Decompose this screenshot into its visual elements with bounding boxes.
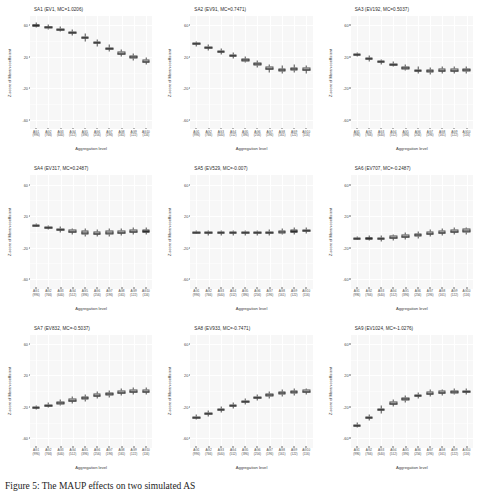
x-tick-label: AG8(161) (439, 449, 446, 456)
boxplot-marker (414, 70, 422, 71)
x-tick-mark (109, 287, 110, 289)
boxplot-marker (451, 392, 459, 393)
boxplot-median (241, 402, 249, 403)
x-tick-label: AG9(122) (290, 131, 297, 138)
boxplot-median (414, 396, 422, 397)
x-tick-label-line2: (122) (451, 134, 458, 138)
y-tick-label: -60 (343, 436, 349, 441)
gridline-vertical (357, 16, 358, 129)
x-tick-label-line2: (996) (193, 134, 200, 138)
y-tick-label: -60 (183, 436, 189, 441)
x-tick-label: AG10(116) (463, 449, 471, 456)
x-tick-label-line2: (396) (242, 453, 249, 457)
boxplot-marker (353, 238, 361, 239)
x-tick-label-line2: (396) (402, 453, 409, 457)
gridline-vertical (196, 335, 197, 448)
x-tick-labels: AG1(996)AG2(766)AG3(640)AG4(512)AG5(396)… (30, 289, 152, 301)
x-tick-label-line2: (196) (266, 134, 273, 138)
y-tick-labels: 6020-20-60 (14, 335, 30, 448)
gridline-vertical (233, 335, 234, 448)
y-tick-labels: 6020-20-60 (174, 16, 190, 129)
boxplot-median (426, 393, 434, 394)
figure-container: SA1 (EV1, MC=1.0206)Z-score of Moran coe… (0, 0, 481, 498)
boxplot-median (32, 407, 40, 408)
boxplot-median (302, 69, 310, 70)
plot-area (30, 335, 152, 448)
x-tick-label-line2: (766) (45, 134, 52, 138)
boxplot-marker (142, 231, 150, 232)
boxplot-marker (353, 55, 361, 56)
boxplot-median (302, 391, 310, 392)
boxplot-marker (118, 232, 126, 233)
x-tick-label-line2: (396) (402, 134, 409, 138)
x-tick-label-line2: (122) (130, 294, 137, 298)
x-tick-label: AG7(196) (266, 449, 273, 456)
boxplot-marker (32, 407, 40, 408)
x-tick-label: AG4(512) (229, 131, 236, 138)
x-tick-mark (84, 287, 85, 289)
x-tick-mark (97, 446, 98, 448)
boxplot-median (217, 409, 225, 410)
boxplot-marker (266, 233, 274, 234)
plot-area (351, 335, 473, 448)
x-tick-mark (72, 287, 73, 289)
x-tick-mark (306, 128, 307, 130)
x-tick-label-line2: (640) (217, 134, 224, 138)
x-tick-label: AG6(256) (414, 290, 421, 297)
boxplot-median (290, 392, 298, 393)
boxplot-marker (402, 236, 410, 237)
boxplot-median (106, 394, 114, 395)
x-axis-label: Aggregation level (351, 465, 473, 470)
panel-title: SA6 (EV707, MC=-0.2487) (355, 166, 411, 171)
boxplot-median (254, 398, 262, 399)
x-tick-mark (306, 287, 307, 289)
x-axis-label: Aggregation level (30, 146, 152, 151)
x-tick-label: AG1(996) (32, 290, 39, 297)
x-tick-mark (356, 128, 357, 130)
gridline-vertical (270, 16, 271, 129)
boxplot-median (402, 236, 410, 237)
panel-title: SA1 (EV1, MC=1.0206) (34, 7, 83, 12)
x-tick-label: AG9(122) (130, 131, 137, 138)
boxplot-marker (229, 56, 237, 57)
x-tick-label: AG7(196) (426, 131, 433, 138)
y-tick-label: -60 (22, 117, 28, 122)
plot-area (190, 16, 312, 129)
x-tick-mark (233, 128, 234, 130)
x-tick-label-line2: (161) (278, 453, 285, 457)
x-tick-label-line2: (766) (365, 134, 372, 138)
plot-wrap (351, 175, 473, 288)
x-tick-label: AG8(161) (118, 131, 125, 138)
gridline-vertical (221, 335, 222, 448)
gridline-vertical (221, 16, 222, 129)
x-tick-mark (121, 446, 122, 448)
gridline-vertical (245, 335, 246, 448)
gridline-vertical (146, 16, 147, 129)
x-tick-label: AG8(161) (439, 290, 446, 297)
x-tick-label-line2: (196) (426, 453, 433, 457)
x-tick-label-line2: (122) (290, 294, 297, 298)
boxplot-marker (426, 393, 434, 394)
x-tick-label-line2: (116) (302, 453, 310, 457)
boxplot-median (130, 57, 138, 58)
x-tick-label-line2: (256) (254, 294, 261, 298)
x-tick-mark (381, 128, 382, 130)
boxplot-median (353, 425, 361, 426)
x-tick-label: AG2(766) (365, 131, 372, 138)
boxplot-marker (365, 417, 373, 418)
x-tick-label-line2: (766) (45, 453, 52, 457)
boxplot-median (142, 231, 150, 232)
x-axis-label: Aggregation level (30, 465, 152, 470)
x-tick-label: AG3(640) (378, 449, 385, 456)
gridline-vertical (357, 175, 358, 288)
boxplot-marker (130, 391, 138, 392)
x-tick-label: AG2(766) (45, 449, 52, 456)
x-tick-mark (417, 128, 418, 130)
y-tick-labels: 6020-20-60 (14, 16, 30, 129)
x-tick-label-line2: (116) (463, 453, 471, 457)
boxplot-marker (290, 392, 298, 393)
boxplot-median (426, 71, 434, 72)
x-tick-mark (294, 446, 295, 448)
y-tick-labels: 6020-20-60 (14, 175, 30, 288)
chart-panel: SA5 (EV529, MC=-0.007)Z-score of Moran c… (160, 159, 320, 318)
